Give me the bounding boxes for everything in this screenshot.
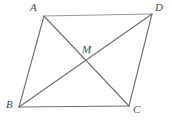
vertex-label-c: C (133, 104, 140, 115)
diagonal-AC-line (44, 16, 129, 106)
side-CB-line (19, 106, 129, 107)
vertex-label-b: B (6, 99, 13, 110)
side-BA-line (19, 16, 44, 107)
vertex-label-a: A (30, 2, 37, 13)
figure-canvas (0, 0, 172, 128)
geometry-figure: A D B C M (0, 0, 172, 128)
side-AD-line (44, 14, 152, 16)
intersection-label-m: M (82, 44, 91, 55)
vertex-label-d: D (155, 2, 163, 13)
